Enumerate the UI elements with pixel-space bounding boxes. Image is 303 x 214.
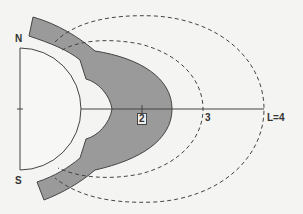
south-label: S — [15, 176, 22, 186]
l3-label: 3 — [205, 113, 211, 123]
l4-label: L=4 — [267, 113, 285, 123]
north-label: N — [15, 34, 22, 44]
dipole-field-diagram — [0, 0, 303, 214]
l2-label: 2 — [137, 113, 147, 125]
